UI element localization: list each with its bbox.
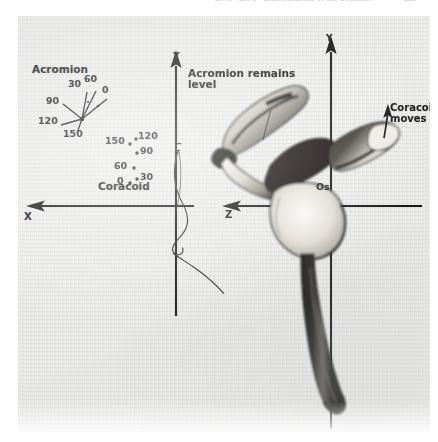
axis-label-x: X: [24, 212, 32, 223]
axis-label-y-right: Y: [326, 34, 333, 44]
axis-label-z: Z: [225, 210, 232, 221]
coracoid-point-60: 60: [114, 160, 127, 171]
acromion-remains-level-callout: Acromion remains level: [188, 68, 295, 91]
acromion-group-label: Acromion: [32, 64, 88, 75]
acromion-tick-90: 90: [46, 95, 59, 106]
os-landmark-label: Os: [316, 182, 330, 192]
coracoid-moves-up-callout: Coracoid moves up: [390, 103, 430, 125]
running-header-text: CHAPTER 8 • Biomechanics of the Shoulder: [214, 0, 373, 2]
acromion-tick-30: 30: [68, 78, 81, 89]
coracoid-point-90: 90: [140, 145, 153, 156]
axis-label-y-left: Y: [173, 52, 180, 62]
scapula-specimen-photo: [212, 86, 399, 413]
coracoid-scatter-dots: [128, 137, 138, 184]
coracoid-point-150: 150: [105, 135, 125, 146]
coracoid-point-30: 30: [140, 171, 153, 182]
coracoid-point-120: 120: [138, 130, 158, 141]
running-header-page-number: 225: [404, 0, 416, 2]
coracoid-point-0: 0: [117, 175, 124, 186]
figure-plate: Acromion Coracoid Acromion remains level…: [18, 16, 430, 432]
acromion-angle-fan: [61, 91, 107, 133]
acromion-tick-120: 120: [38, 115, 58, 126]
acromion-tick-60: 60: [84, 73, 97, 84]
running-header: CHAPTER 8 • Biomechanics of the Shoulder…: [0, 0, 438, 11]
acromion-tick-150: 150: [63, 128, 83, 139]
acromion-tick-0: 0: [102, 84, 109, 95]
